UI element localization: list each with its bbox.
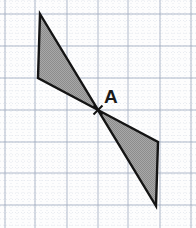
center-cross-icon (94, 106, 103, 115)
upper-triangle (38, 14, 98, 110)
shapes-layer (0, 0, 196, 228)
geometry-figure: A (0, 0, 196, 228)
point-label-a: A (104, 87, 118, 106)
lower-triangle (98, 110, 158, 206)
